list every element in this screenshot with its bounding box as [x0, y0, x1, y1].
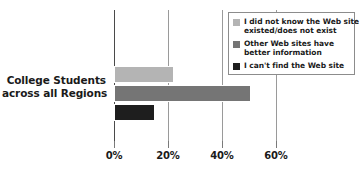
bar-series-1 — [114, 66, 174, 83]
tick-label-60: 60% — [264, 150, 287, 161]
legend-item-2: Other Web sites have better information — [233, 39, 351, 57]
legend-item-3: I can't find the Web site — [233, 61, 351, 70]
legend-label-1-line-2: existed/does not exist — [244, 26, 359, 35]
legend-label-2-line-2: better information — [244, 48, 334, 57]
legend-swatch-icon-2 — [233, 41, 240, 48]
legend-label-2: Other Web sites have better information — [244, 39, 334, 57]
bar-series-3 — [114, 104, 155, 121]
bar-chart: College Students across all Regions 0% 2… — [0, 0, 359, 177]
bar-series-2 — [114, 85, 251, 102]
legend-label-2-line-1: Other Web sites have — [244, 39, 334, 48]
tick-mark-0 — [114, 141, 115, 148]
category-label-line-2: across all Regions — [2, 87, 106, 100]
tick-label-0: 0% — [106, 150, 123, 161]
legend: I did not know the Web site existed/does… — [228, 12, 355, 75]
legend-label-1: I did not know the Web site existed/does… — [244, 17, 359, 35]
tick-label-20: 20% — [156, 150, 179, 161]
tick-mark-60 — [276, 141, 277, 148]
category-label: College Students across all Regions — [2, 74, 106, 100]
gridline-40 — [222, 10, 223, 141]
legend-swatch-icon-1 — [233, 19, 240, 26]
tick-mark-40 — [222, 141, 223, 148]
tick-label-40: 40% — [210, 150, 233, 161]
legend-label-3: I can't find the Web site — [244, 61, 344, 70]
tick-mark-20 — [168, 141, 169, 148]
legend-label-1-line-1: I did not know the Web site — [244, 17, 359, 26]
legend-label-3-line-1: I can't find the Web site — [244, 61, 344, 70]
legend-swatch-icon-3 — [233, 63, 240, 70]
legend-item-1: I did not know the Web site existed/does… — [233, 17, 351, 35]
category-label-line-1: College Students — [2, 74, 106, 87]
